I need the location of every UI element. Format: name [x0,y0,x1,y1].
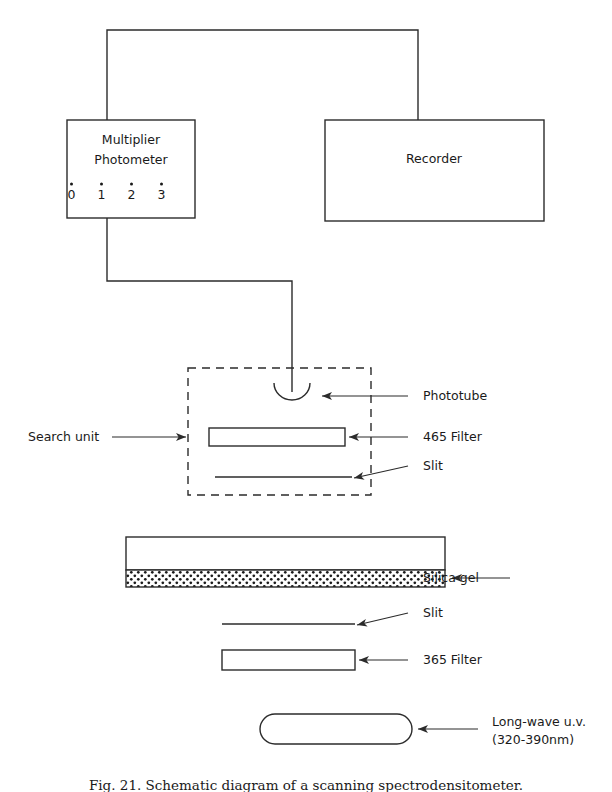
plate-backing-shape [126,537,445,570]
uv-lamp-label-line1: Long-wave u.v. [492,714,586,729]
dial-value-1: 1 [98,187,106,202]
silica-gel-label: Silica gel [423,570,479,585]
silica-gel-layer-shape [126,570,445,587]
recorder-label: Recorder [406,151,463,166]
multiplier-photometer-unit: Multiplier Photometer 0 1 2 3 [67,120,195,218]
filter-365-shape [222,650,355,670]
dial-tick-3 [160,183,163,186]
recorder-box [325,120,544,221]
wire-photometer-to-phototube [107,218,292,392]
filter-465-label: 465 Filter [423,429,483,444]
leader-slit-upper [354,466,408,478]
phototube-label: Phototube [423,388,487,403]
uv-lamp-label-line2: (320-390nm) [492,732,574,747]
dial-tick-0 [70,183,73,186]
recorder-unit: Recorder [325,120,544,221]
schematic-diagram: Multiplier Photometer 0 1 2 3 Recorder S… [0,0,612,792]
wire-photometer-to-recorder [107,30,418,123]
filter-365-label: 365 Filter [423,652,483,667]
dial-value-0: 0 [68,187,76,202]
dial-value-2: 2 [128,187,136,202]
dial-tick-1 [100,183,103,186]
leader-slit-lower [357,613,408,625]
tlc-plate-group [126,537,445,587]
dial-value-3: 3 [158,187,166,202]
photometer-label-line2: Photometer [94,152,168,167]
figure-caption: Fig. 21. Schematic diagram of a scanning… [89,777,523,792]
filter-465-shape [209,428,345,446]
uv-lamp-shape [260,714,412,744]
dial-tick-2 [130,183,133,186]
search-unit-label: Search unit [28,429,99,444]
photometer-label-line1: Multiplier [102,132,161,147]
slit-upper-label: Slit [423,458,443,473]
search-unit-group [188,368,371,495]
slit-lower-label: Slit [423,605,443,620]
